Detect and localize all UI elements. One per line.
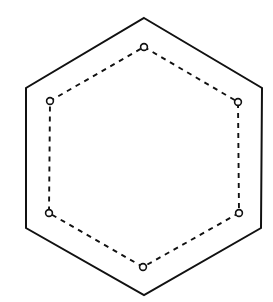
figure-background [0,0,273,302]
vertex-marker-lower-right [236,210,243,217]
hexagon-diagram-svg [0,0,273,302]
vertex-marker-upper-left [47,98,54,105]
vertex-marker-bottom [140,264,147,271]
vertex-marker-upper-right [235,99,242,106]
figure-canvas [0,0,273,302]
vertex-marker-lower-left [46,210,53,217]
vertex-marker-top [141,44,148,51]
